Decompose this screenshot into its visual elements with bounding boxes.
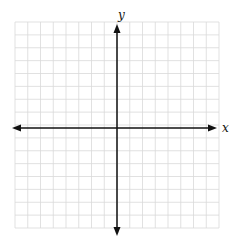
x-axis-label: x <box>222 121 229 135</box>
coordinate-plane: x y <box>0 0 240 240</box>
x-axis-left-arrow-icon <box>12 125 21 132</box>
y-axis-down-arrow-icon <box>114 227 121 236</box>
y-axis-label: y <box>117 8 125 22</box>
axes <box>12 24 217 236</box>
y-axis-up-arrow-icon <box>114 24 121 33</box>
x-axis-right-arrow-icon <box>208 125 217 132</box>
